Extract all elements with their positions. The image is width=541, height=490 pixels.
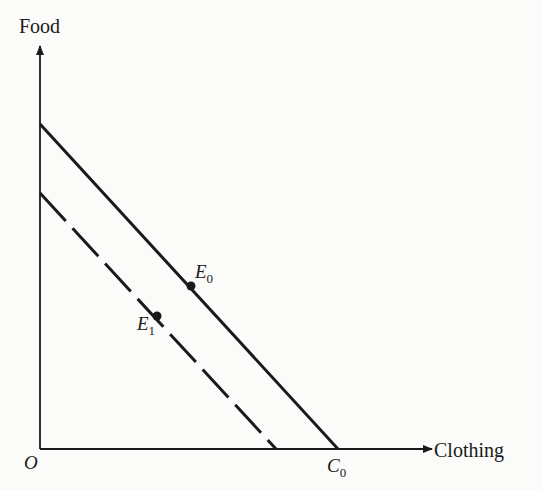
point-e1: [153, 312, 162, 321]
point-e0-label: E0: [194, 261, 213, 286]
budget-line-diagram: Food Clothing O C0 E0 E1: [0, 0, 541, 490]
origin-label: O: [24, 452, 38, 473]
x-axis-label: Clothing: [434, 439, 504, 462]
y-axis-label: Food: [19, 15, 60, 37]
shifted-budget-line: [40, 193, 276, 449]
x-intercept-label: C0: [327, 455, 346, 480]
point-e0: [187, 282, 196, 291]
